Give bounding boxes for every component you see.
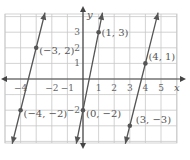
x-tick-label: 4: [143, 83, 149, 93]
point-label: (1, 3): [102, 27, 129, 38]
data-point: [128, 124, 133, 129]
x-axis-left-arrow-icon: [1, 76, 7, 82]
point-label: (4, 1): [148, 51, 175, 62]
data-point: [143, 61, 148, 66]
point-label: (0, −2): [86, 108, 121, 119]
y-axis-down-arrow-icon: [80, 143, 86, 149]
data-point: [34, 46, 39, 51]
y-axis-label: y: [86, 9, 93, 20]
x-axis-right-arrow-icon: [180, 76, 186, 82]
y-axis-up-arrow-icon: [80, 6, 86, 12]
point-label: (3, −3): [136, 114, 171, 125]
x-tick-label: 5: [158, 83, 164, 93]
y-tick-label: 3: [74, 27, 80, 37]
x-axis-label: x: [174, 82, 180, 93]
coordinate-plane-chart: xy−4−2−112345321−2(−3, 2)(−4, −2)(1, 3)(…: [0, 0, 190, 160]
point-label: (−3, 2): [39, 45, 74, 56]
data-point: [96, 30, 101, 35]
data-point: [18, 108, 23, 113]
y-tick-label: 1: [74, 58, 80, 68]
x-tick-label: 2: [111, 83, 117, 93]
y-tick-label: 2: [74, 43, 80, 53]
data-point: [81, 108, 86, 113]
y-tick-label: −2: [67, 105, 80, 115]
x-tick-label: −2: [45, 83, 58, 93]
x-tick-label: −1: [61, 83, 74, 93]
x-tick-label: 1: [96, 83, 102, 93]
x-tick-label: 3: [127, 83, 133, 93]
point-label: (−4, −2): [24, 108, 68, 119]
